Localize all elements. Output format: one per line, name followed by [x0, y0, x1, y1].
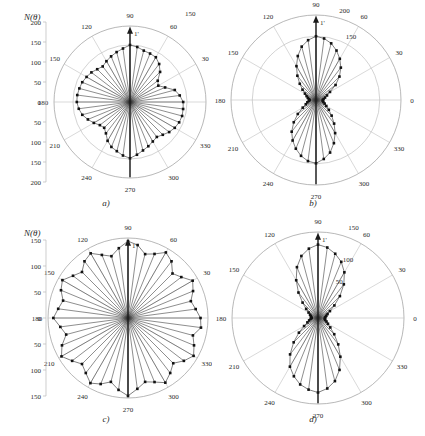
angle-label-150: 150: [44, 269, 55, 277]
panel-caption: b): [309, 198, 317, 208]
data-point-marker: [321, 100, 324, 103]
data-point-marker: [178, 121, 181, 124]
data-point-marker: [172, 362, 175, 365]
rose-spoke: [87, 77, 130, 102]
data-point-marker: [296, 266, 299, 269]
data-point-marker: [333, 304, 336, 307]
data-point-marker: [60, 355, 63, 358]
data-point-marker: [117, 389, 120, 392]
data-point-marker: [96, 68, 99, 71]
data-point-marker: [328, 109, 331, 112]
data-point-marker: [333, 333, 336, 336]
data-point-marker: [89, 382, 92, 385]
angle-label-90: 90: [127, 12, 135, 20]
data-point-marker: [77, 107, 80, 110]
value-axis-tick-label: 0: [38, 99, 42, 107]
data-point-marker: [136, 153, 139, 156]
data-point-marker: [136, 388, 139, 391]
data-point-marker: [182, 108, 185, 111]
data-point-marker: [337, 343, 340, 346]
data-point-marker: [200, 326, 203, 329]
angle-label-120: 120: [77, 236, 88, 244]
rose-spoke: [301, 256, 318, 318]
data-point-marker: [173, 89, 176, 92]
rose-spoke: [82, 102, 130, 115]
data-point-marker: [339, 295, 342, 298]
angle-label-330: 330: [397, 363, 408, 371]
data-point-marker: [192, 355, 195, 358]
radial-label-150: 150: [348, 224, 359, 232]
angle-label-240: 240: [264, 399, 275, 407]
data-point-marker: [78, 87, 81, 90]
angle-label-330: 330: [200, 142, 211, 150]
data-point-marker: [194, 308, 197, 311]
data-point-marker: [71, 360, 74, 363]
rose-spoke: [130, 102, 182, 116]
rose-spoke: [111, 318, 128, 382]
data-point-marker: [144, 381, 147, 384]
data-point-marker: [144, 253, 147, 256]
angle-label-30: 30: [203, 269, 211, 277]
data-point-marker: [292, 121, 295, 124]
rose-spoke: [90, 318, 128, 383]
data-point-marker: [156, 136, 159, 139]
data-point-marker: [84, 372, 87, 375]
value-axis-tick-label: 0: [38, 315, 42, 323]
data-point-marker: [60, 289, 63, 292]
polar-panel-a: 1'03060901201501802102402703003301502001…: [0, 0, 212, 218]
data-point-marker: [62, 299, 65, 302]
data-point-marker: [334, 132, 337, 135]
rose-spoke: [117, 52, 130, 102]
data-point-marker: [155, 56, 158, 59]
data-point-marker: [110, 255, 113, 258]
data-point-marker: [110, 55, 113, 58]
radial-label-200: 200: [339, 7, 350, 15]
angle-label-240: 240: [81, 174, 92, 182]
data-point-marker: [199, 317, 202, 320]
data-point-marker: [303, 325, 306, 328]
data-point-marker: [340, 66, 343, 69]
data-point-marker: [306, 321, 309, 324]
data-point-marker: [301, 88, 304, 91]
data-point-marker: [152, 140, 155, 143]
value-axis-tick-label: 50: [34, 289, 42, 297]
mean-vector-label: 1': [132, 242, 137, 250]
grid-ray: [244, 275, 318, 318]
mean-vector-label: 1': [322, 236, 327, 244]
data-point-marker: [106, 140, 109, 143]
data-point-marker: [296, 113, 299, 116]
panel-caption: a): [102, 198, 110, 208]
data-point-marker: [142, 49, 145, 52]
data-point-marker: [324, 318, 327, 321]
data-point-marker: [293, 375, 296, 378]
angle-label-120: 120: [264, 231, 275, 239]
angle-label-90: 90: [125, 224, 133, 232]
data-point-marker: [326, 246, 329, 249]
rose-spoke: [128, 273, 173, 318]
polar-rose-figure: 1'03060901201501802102402703003301502001…: [0, 0, 425, 436]
angle-label-90: 90: [315, 218, 323, 226]
data-point-marker: [296, 55, 299, 58]
data-point-marker: [326, 94, 329, 97]
rose-spoke: [318, 318, 335, 381]
data-point-marker: [325, 105, 328, 108]
angle-label-180: 180: [216, 315, 227, 323]
panel-caption: c): [103, 414, 110, 424]
data-point-marker: [304, 103, 307, 106]
rose-spoke: [128, 301, 191, 318]
rose-spoke: [82, 272, 128, 318]
data-point-marker: [329, 151, 332, 154]
angle-label-330: 330: [202, 360, 212, 368]
rose-spoke: [63, 301, 128, 318]
data-point-marker: [90, 71, 93, 74]
data-point-marker: [296, 74, 299, 77]
angle-label-210: 210: [44, 360, 55, 368]
data-point-marker: [76, 94, 79, 97]
data-point-marker: [298, 331, 301, 334]
angle-label-120: 120: [81, 23, 92, 31]
data-point-marker: [343, 283, 346, 286]
radial-label-50: 50: [336, 278, 344, 286]
data-point-marker: [89, 252, 92, 255]
data-point-marker: [307, 388, 310, 391]
angle-label-300: 300: [168, 393, 179, 401]
